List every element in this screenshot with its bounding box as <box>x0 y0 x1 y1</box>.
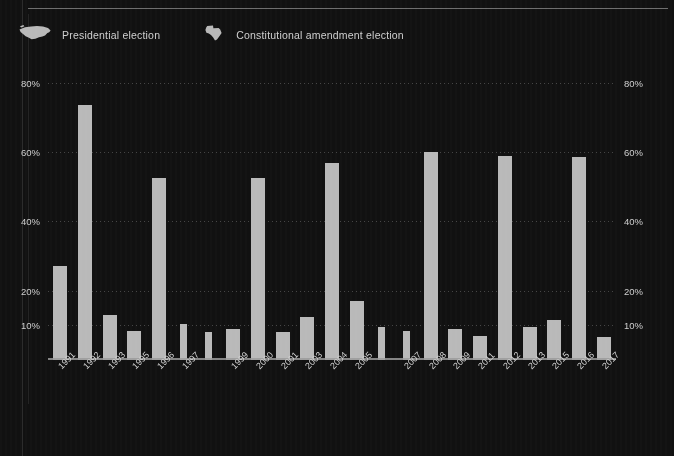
bar-2005[interactable] <box>350 301 364 360</box>
y-tick-right-80%: 80% <box>624 77 643 88</box>
y-tick-left-10%: 10% <box>21 320 40 331</box>
page-left-rule <box>22 0 23 456</box>
y-tick-left-20%: 20% <box>21 285 40 296</box>
us-map-icon <box>18 23 52 47</box>
legend-label-amendment: Constitutional amendment election <box>236 29 404 41</box>
chart-legend: Presidential election Constitutional ame… <box>18 22 448 48</box>
bar-1996[interactable] <box>152 178 166 360</box>
bar-2000[interactable] <box>251 178 265 360</box>
bar-1997[interactable] <box>180 324 187 360</box>
chart-page: Presidential election Constitutional ame… <box>0 0 674 456</box>
y-tick-right-60%: 60% <box>624 147 643 158</box>
plot-area: 10%20%40%60%80% 10%20%40%60%80% <box>48 69 616 360</box>
y-tick-left-60%: 60% <box>21 147 40 158</box>
texas-map-icon <box>204 23 226 47</box>
y-tick-right-10%: 10% <box>624 320 643 331</box>
y-tick-right-20%: 20% <box>624 285 643 296</box>
y-tick-right-40%: 40% <box>624 216 643 227</box>
bar-chart: 10%20%40%60%80% 10%20%40%60%80% 19911992… <box>28 60 616 405</box>
bar-1993[interactable] <box>103 315 117 360</box>
header-divider <box>28 8 668 9</box>
bar-2006[interactable] <box>378 327 385 360</box>
y-tick-left-40%: 40% <box>21 216 40 227</box>
bar-series <box>48 69 616 360</box>
bar-2008[interactable] <box>424 152 438 360</box>
legend-item-amendment[interactable]: Constitutional amendment election <box>204 23 404 47</box>
bar-2004[interactable] <box>325 163 339 360</box>
y-tick-left-80%: 80% <box>21 77 40 88</box>
bar-1998[interactable] <box>205 332 212 360</box>
bar-1991[interactable] <box>53 266 67 360</box>
bar-1992[interactable] <box>78 105 92 360</box>
legend-item-presidential[interactable]: Presidential election <box>18 23 160 47</box>
legend-label-presidential: Presidential election <box>62 29 160 41</box>
bar-2012[interactable] <box>498 156 512 360</box>
bar-2016[interactable] <box>572 157 586 360</box>
x-axis-labels: 1991199219931995199619971999200020012003… <box>28 360 616 405</box>
